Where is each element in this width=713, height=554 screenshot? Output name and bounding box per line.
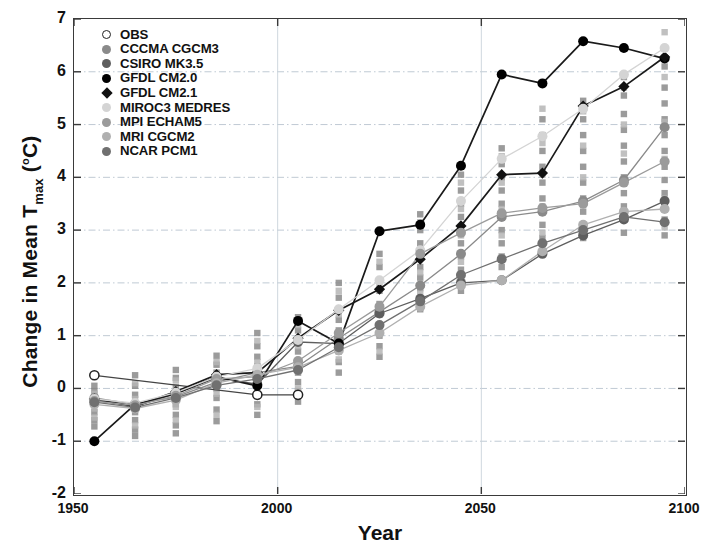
legend-marker-circle-icon [98, 144, 120, 158]
data-point [578, 36, 588, 46]
legend-marker-circle-icon [98, 56, 120, 70]
legend-item: GFDL CM2.0 [98, 71, 230, 86]
legend-item: GFDL CM2.1 [98, 85, 230, 100]
legend-marker-circle-icon [98, 100, 120, 114]
data-point [619, 212, 629, 222]
data-point [293, 316, 303, 326]
data-point [293, 365, 303, 375]
legend-label: OBS [120, 28, 148, 41]
y-tick-label: 3 [32, 221, 66, 237]
y-tick-label: -1 [32, 432, 66, 448]
data-point [334, 328, 344, 338]
data-point [660, 43, 670, 53]
data-point [375, 320, 385, 330]
legend-item: NCAR PCM1 [98, 144, 230, 159]
x-tick-label: 2000 [247, 500, 307, 516]
legend-label: MPI ECHAM5 [120, 115, 202, 128]
data-point [497, 275, 507, 285]
data-point [537, 203, 547, 213]
data-point [375, 226, 385, 236]
y-tick-label: 2 [32, 274, 66, 290]
data-point [660, 217, 670, 227]
y-tick-label: 5 [32, 116, 66, 132]
data-point [252, 374, 262, 384]
legend-label: GFDL CM2.0 [120, 71, 197, 84]
legend-marker-diamond-icon [98, 86, 120, 100]
data-point [578, 199, 588, 209]
legend-marker-open-circle-icon [98, 27, 120, 41]
legend-label: CCCMA CGCM3 [120, 42, 219, 55]
data-point [456, 270, 466, 280]
data-point [89, 436, 99, 446]
chart-figure: Change in Mean Tmax (oC) 76543210-1-2 OB… [0, 0, 713, 554]
data-point [619, 43, 629, 53]
data-point [375, 302, 385, 312]
legend-item: CCCMA CGCM3 [98, 42, 230, 57]
data-point [90, 371, 99, 380]
data-point [253, 390, 262, 399]
legend-item: MPI ECHAM5 [98, 115, 230, 130]
data-point [130, 402, 140, 412]
data-point [456, 196, 466, 206]
data-point [456, 228, 466, 238]
data-point [171, 393, 181, 403]
data-point [293, 390, 302, 399]
data-point [497, 208, 507, 218]
data-point [497, 69, 507, 79]
legend-label: NCAR PCM1 [120, 144, 198, 157]
y-tick-label: 6 [32, 63, 66, 79]
legend-label: CSIRO MK3.5 [120, 57, 203, 70]
y-tick-label: 7 [32, 10, 66, 26]
data-point [375, 275, 385, 285]
legend-item: MIROC3 MEDRES [98, 100, 230, 115]
data-point [619, 178, 629, 188]
legend-item: CSIRO MK3.5 [98, 56, 230, 71]
legend-marker-circle-icon [98, 115, 120, 129]
legend-item: MRI CGCM2 [98, 129, 230, 144]
data-point [660, 157, 670, 167]
legend-label: MRI CGCM2 [120, 130, 195, 143]
y-tick-label: 0 [32, 379, 66, 395]
legend-label: GFDL CM2.1 [120, 86, 197, 99]
data-point [660, 204, 670, 214]
plot-area: OBSCCCMA CGCM3CSIRO MK3.5GFDL CM2.0GFDL … [73, 18, 687, 496]
legend-marker-circle-icon [98, 42, 120, 56]
data-point [456, 281, 466, 291]
data-point [537, 238, 547, 248]
data-point [537, 78, 547, 88]
y-axis-tick-labels: 76543210-1-2 [30, 0, 66, 554]
data-point [619, 69, 629, 79]
data-point [497, 254, 507, 264]
data-point [415, 220, 425, 230]
data-point [89, 397, 99, 407]
data-point [456, 249, 466, 259]
x-axis-title: Year [73, 521, 687, 545]
data-point [497, 154, 507, 164]
legend-label: MIROC3 MEDRES [120, 101, 230, 114]
y-tick-label: 4 [32, 168, 66, 184]
data-point [537, 131, 547, 141]
x-tick-label: 1950 [43, 500, 103, 516]
y-tick-label: -2 [32, 485, 66, 501]
data-point [334, 304, 344, 314]
y-tick-label: 1 [32, 327, 66, 343]
data-point [578, 104, 588, 114]
legend-item: OBS [98, 27, 230, 42]
legend-marker-circle-icon [98, 71, 120, 85]
data-point [618, 81, 629, 92]
data-point [660, 122, 670, 132]
data-point [578, 225, 588, 235]
data-point [415, 249, 425, 259]
data-point [212, 380, 222, 390]
data-point [415, 296, 425, 306]
x-tick-label: 2100 [654, 500, 713, 516]
chart-legend: OBSCCCMA CGCM3CSIRO MK3.5GFDL CM2.0GFDL … [98, 27, 230, 158]
data-point [456, 161, 466, 171]
data-point [415, 281, 425, 291]
legend-marker-circle-icon [98, 129, 120, 143]
data-point [293, 335, 303, 345]
x-tick-label: 2050 [450, 500, 510, 516]
data-point [334, 342, 344, 352]
